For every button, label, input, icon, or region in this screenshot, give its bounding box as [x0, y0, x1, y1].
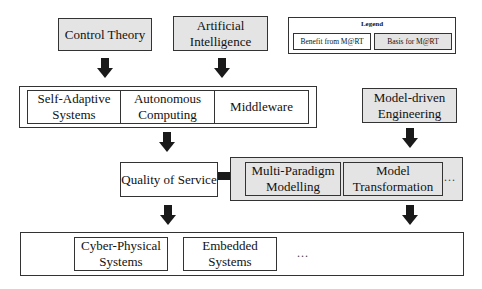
arrow-down-icon: [214, 58, 230, 78]
legend-title: Legend: [289, 20, 455, 28]
model-driven-engineering-label: Model-driven Engineering: [369, 90, 450, 121]
middleware-label: Middleware: [230, 99, 293, 115]
arrow-down-icon: [402, 205, 418, 225]
self-adaptive-systems-label: Self-Adaptive Systems: [28, 91, 120, 122]
artificial-intelligence-box: Artificial Intelligence: [173, 16, 268, 51]
artificial-intelligence-label: Artificial Intelligence: [178, 18, 263, 49]
row4-ellipsis: ...: [297, 246, 309, 261]
control-theory-label: Control Theory: [65, 27, 145, 43]
legend-basis-label: Basis for M@RT: [387, 37, 438, 46]
arrow-down-icon: [402, 128, 418, 148]
embedded-systems-box: Embedded Systems: [183, 237, 277, 271]
control-theory-box: Control Theory: [58, 18, 152, 51]
multi-paradigm-modelling-label: Multi-Paradigm Modelling: [246, 163, 340, 194]
embedded-systems-label: Embedded Systems: [198, 238, 262, 269]
arrow-down-icon: [159, 132, 175, 152]
legend: Legend Benefit from M@RT Basis for M@RT: [288, 17, 456, 54]
autonomous-computing-label: Autonomous Computing: [127, 91, 208, 122]
quality-of-service-box: Quality of Service: [120, 162, 218, 197]
legend-benefit-label: Benefit from M@RT: [300, 37, 363, 46]
legend-basis: Basis for M@RT: [374, 33, 452, 50]
arrow-down-icon: [160, 205, 176, 225]
legend-benefit: Benefit from M@RT: [293, 33, 371, 50]
model-transformation-label: Model Transformation: [344, 163, 442, 194]
autonomous-computing-box: Autonomous Computing: [120, 90, 215, 124]
multi-paradigm-modelling-box: Multi-Paradigm Modelling: [245, 162, 341, 196]
cyber-physical-systems-box: Cyber-Physical Systems: [74, 237, 168, 271]
arrow-down-icon: [97, 58, 113, 78]
middleware-box: Middleware: [214, 90, 309, 124]
quality-of-service-label: Quality of Service: [121, 172, 216, 188]
model-driven-engineering-box: Model-driven Engineering: [362, 88, 457, 123]
self-adaptive-systems-box: Self-Adaptive Systems: [27, 90, 121, 124]
model-transformation-box: Model Transformation: [343, 162, 443, 196]
row3-ellipsis: ...: [444, 170, 456, 185]
cyber-physical-systems-label: Cyber-Physical Systems: [75, 238, 167, 269]
